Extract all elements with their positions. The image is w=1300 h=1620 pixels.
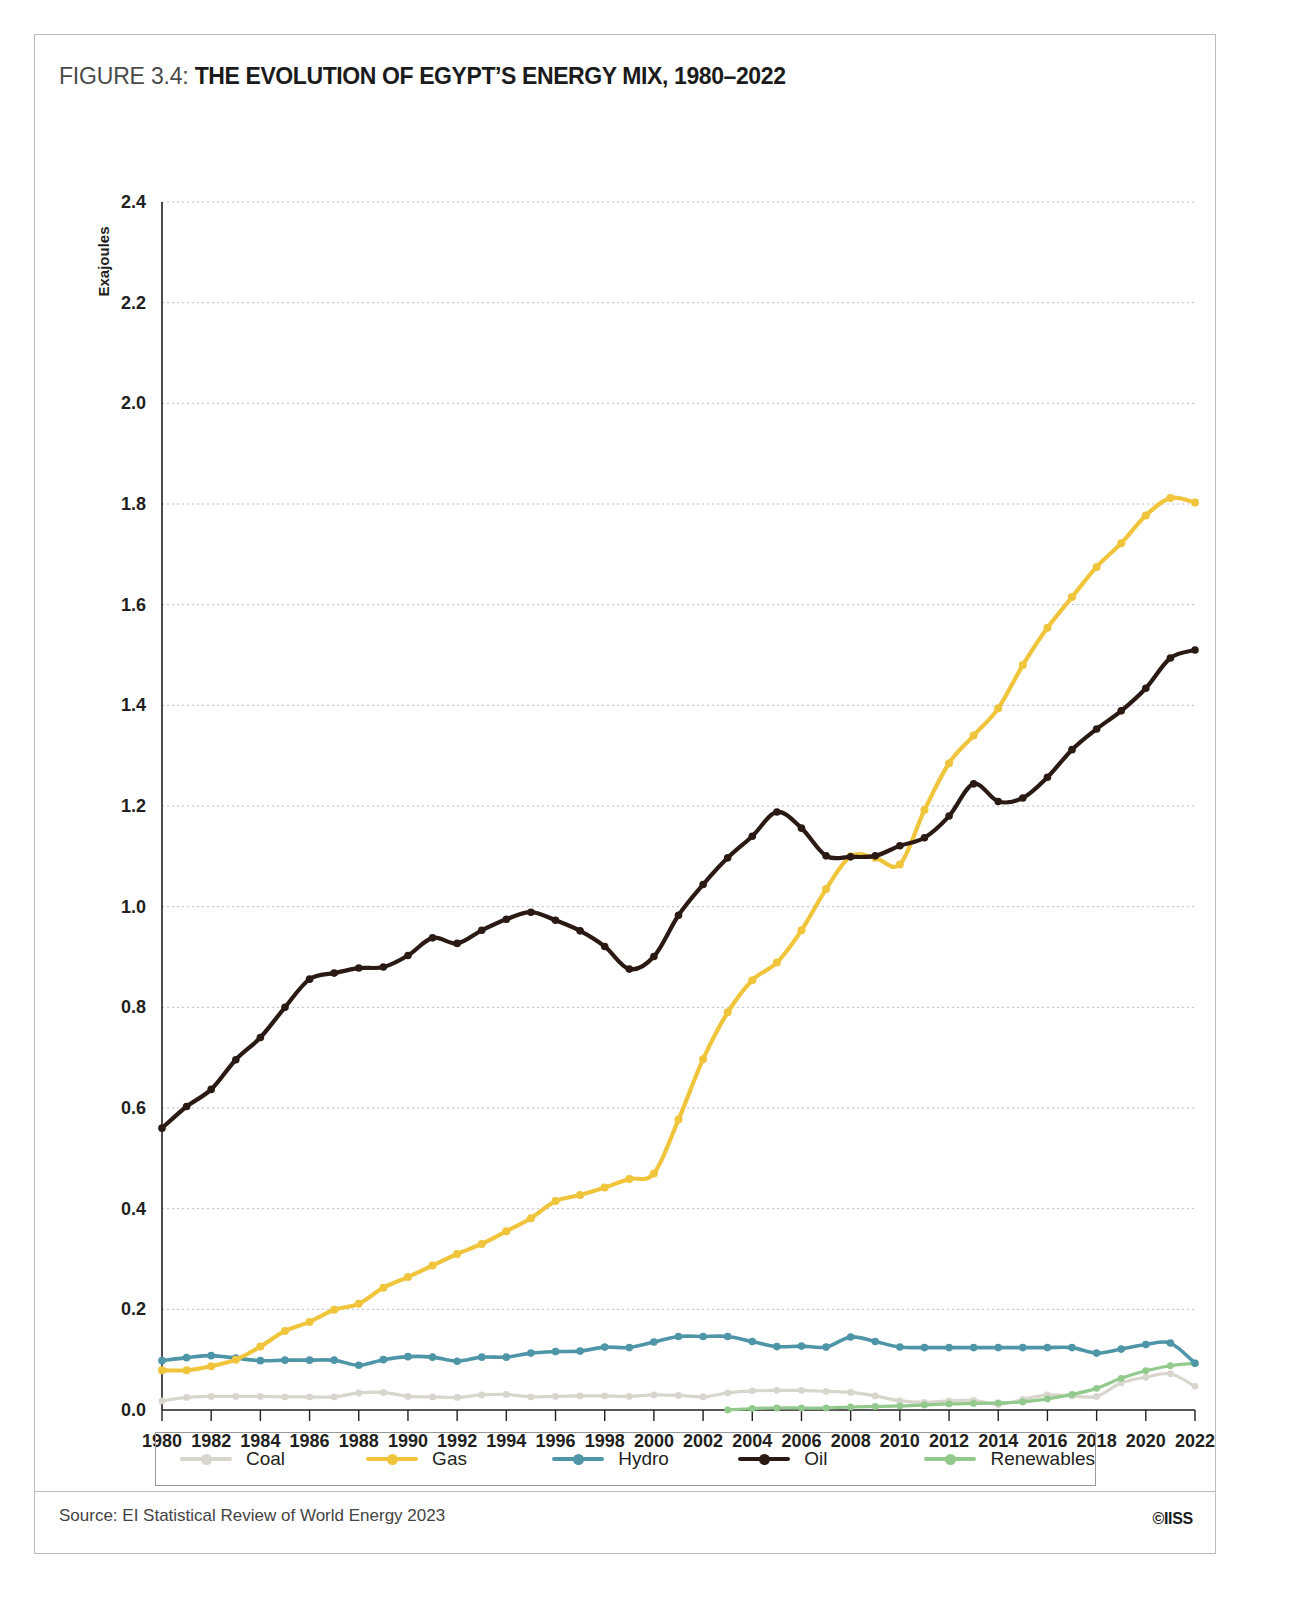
data-point-gas [1191,498,1199,506]
data-point-coal [798,1387,805,1394]
legend-item-coal[interactable]: Coal [156,1448,342,1470]
legend-item-hydro[interactable]: Hydro [528,1448,714,1470]
data-point-oil [330,969,338,977]
iiss-logo: ©IISS [1152,1510,1193,1528]
data-point-oil [994,798,1002,806]
data-point-renewables [970,1400,977,1407]
data-point-gas [896,860,904,868]
data-point-coal [208,1393,215,1400]
data-point-gas [1093,563,1101,571]
data-point-gas [625,1175,633,1183]
data-point-gas [1019,661,1027,669]
data-point-gas [379,1284,387,1292]
data-point-renewables [1019,1399,1026,1406]
data-point-oil [1093,725,1101,733]
data-point-coal [429,1394,436,1401]
data-point-coal [355,1389,362,1396]
y-axis-tick-label: 2.0 [121,393,146,413]
data-point-coal [1093,1393,1100,1400]
legend-swatch-hydro-icon [552,1452,604,1466]
data-point-coal [257,1393,264,1400]
data-point-hydro [552,1348,560,1356]
data-point-oil [1019,794,1027,802]
data-point-coal [1142,1374,1149,1381]
y-axis-tick-label: 0.0 [121,1400,146,1420]
data-point-oil [724,854,732,862]
data-point-oil [1044,774,1052,782]
data-point-gas [797,926,805,934]
data-point-hydro [380,1356,388,1364]
data-point-gas [748,976,756,984]
y-axis-tick-label: 1.6 [121,595,146,615]
legend-item-oil[interactable]: Oil [714,1448,900,1470]
x-axis-tick-label: 2022 [1175,1431,1215,1451]
legend-item-gas[interactable]: Gas [342,1448,528,1470]
data-point-renewables [1142,1367,1149,1374]
data-point-oil [453,940,461,948]
data-point-gas [970,732,978,740]
data-point-gas [552,1197,560,1205]
data-point-renewables [749,1405,756,1412]
data-point-hydro [404,1353,412,1361]
data-point-hydro [773,1343,781,1351]
energy-mix-line-chart: 0.00.20.40.60.81.01.21.41.61.82.02.22.41… [35,123,1217,1413]
data-point-renewables [773,1405,780,1412]
data-point-hydro [675,1333,683,1341]
data-point-hydro [183,1354,191,1362]
data-point-gas [453,1250,461,1258]
data-point-oil [626,965,634,973]
data-point-oil [527,908,535,916]
data-point-oil [552,916,560,924]
data-point-oil [503,915,511,923]
data-point-coal [626,1393,633,1400]
data-point-hydro [355,1361,363,1369]
data-point-hydro [281,1356,289,1364]
legend-item-renewables[interactable]: Renewables [900,1448,1095,1470]
data-point-gas [183,1366,191,1374]
data-point-coal [724,1389,731,1396]
data-point-hydro [158,1357,166,1365]
data-point-oil [576,927,584,935]
data-point-coal [675,1392,682,1399]
data-point-oil [257,1034,265,1042]
figure-number: FIGURE 3.4: [59,63,188,89]
data-point-renewables [1167,1362,1174,1369]
data-point-coal [503,1391,510,1398]
data-point-renewables [921,1402,928,1409]
data-point-coal [232,1393,239,1400]
data-point-gas [207,1362,215,1370]
data-point-oil [207,1086,215,1094]
data-point-hydro [1191,1359,1199,1367]
y-axis-tick-label: 0.6 [121,1098,146,1118]
series-coal [159,1370,1199,1408]
legend-label: Renewables [990,1448,1095,1470]
data-point-gas [232,1356,240,1364]
data-point-hydro [503,1353,511,1361]
data-point-coal [183,1394,190,1401]
data-point-coal [601,1393,608,1400]
data-point-oil [1191,646,1199,654]
chart-legend: CoalGasHydroOilRenewables [155,1432,1096,1486]
data-point-oil [355,964,363,972]
figure-card: FIGURE 3.4: THE EVOLUTION OF EGYPT’S ENE… [34,34,1216,1554]
data-point-oil [183,1103,191,1111]
data-point-oil [945,812,953,820]
legend-swatch-renewables-icon [924,1452,976,1466]
data-point-oil [650,953,658,961]
data-point-coal [1192,1383,1199,1390]
data-point-gas [1043,624,1051,632]
legend-label: Hydro [618,1448,669,1470]
series-line-gas [162,497,1195,1370]
series-gas [158,494,1199,1374]
data-point-renewables [872,1403,879,1410]
data-point-coal [651,1392,658,1399]
y-axis-tick-label: 2.2 [121,293,146,313]
data-point-oil [748,832,756,840]
data-point-hydro [798,1342,806,1350]
data-point-coal [282,1394,289,1401]
y-axis-tick-label: 0.8 [121,997,146,1017]
data-point-hydro [478,1353,486,1361]
legend-swatch-oil-icon [738,1452,790,1466]
legend-label: Coal [246,1448,285,1470]
data-point-gas [478,1240,486,1248]
